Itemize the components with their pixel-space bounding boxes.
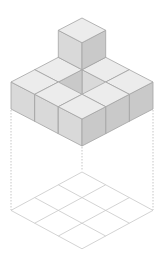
- grid-line: [82, 210, 153, 248]
- grid-line: [82, 172, 153, 210]
- footprint-grid: [11, 172, 153, 249]
- grid-line: [11, 172, 82, 210]
- grid-line: [58, 198, 129, 236]
- grid-line: [35, 185, 106, 223]
- isometric-cube-diagram: [0, 0, 168, 261]
- grid-line: [35, 198, 106, 236]
- grid-line: [58, 185, 129, 223]
- cube-stack: [11, 18, 153, 146]
- grid-line: [11, 210, 82, 248]
